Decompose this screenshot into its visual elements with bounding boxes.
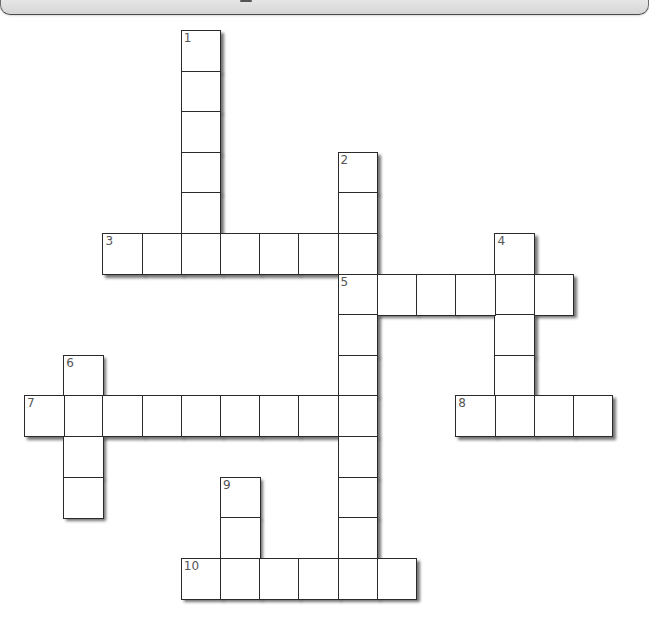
clue-number: 2 xyxy=(341,154,349,166)
clue-number: 9 xyxy=(223,479,231,491)
crossword-cell[interactable] xyxy=(338,233,379,275)
clue-number: 8 xyxy=(458,397,466,409)
crossword-cell[interactable] xyxy=(259,558,300,600)
crossword-cell[interactable]: 1 xyxy=(181,30,222,72)
crossword-cell[interactable]: 4 xyxy=(494,233,535,275)
crossword-cell[interactable] xyxy=(63,395,104,437)
crossword-cell[interactable]: 7 xyxy=(24,395,65,437)
crossword-cell[interactable] xyxy=(102,395,143,437)
crossword-cell[interactable]: 2 xyxy=(338,152,379,194)
crossword-cell[interactable] xyxy=(142,395,183,437)
crossword-cell[interactable] xyxy=(63,436,104,478)
crossword-cell[interactable]: 3 xyxy=(102,233,143,275)
crossword-cell[interactable]: 5 xyxy=(338,274,379,316)
crossword-cell[interactable] xyxy=(494,355,535,397)
crossword-cell[interactable] xyxy=(534,274,575,316)
crossword-cell[interactable]: 10 xyxy=(181,558,222,600)
crossword-cell[interactable] xyxy=(181,71,222,113)
crossword-cell[interactable]: 8 xyxy=(455,395,496,437)
clue-number: 5 xyxy=(341,276,349,288)
crossword-cell[interactable]: 6 xyxy=(63,355,104,397)
crossword-cell[interactable] xyxy=(181,111,222,153)
crossword-cell[interactable] xyxy=(338,355,379,397)
crossword-cell[interactable] xyxy=(338,517,379,559)
crossword-cell[interactable] xyxy=(377,558,418,600)
crossword-cell[interactable] xyxy=(338,477,379,519)
crossword-cell[interactable] xyxy=(181,233,222,275)
crossword-cell[interactable] xyxy=(494,314,535,356)
crossword-cell[interactable] xyxy=(377,274,418,316)
crossword-cell[interactable] xyxy=(338,395,379,437)
clue-number: 4 xyxy=(497,235,505,247)
crossword-cell[interactable] xyxy=(220,517,261,559)
crossword-cell[interactable] xyxy=(338,558,379,600)
crossword-cell[interactable] xyxy=(494,274,535,316)
crossword-cell[interactable]: 9 xyxy=(220,477,261,519)
crossword-cell[interactable] xyxy=(455,274,496,316)
crossword-cell[interactable] xyxy=(338,436,379,478)
crossword-cell[interactable] xyxy=(220,233,261,275)
crossword-cell[interactable] xyxy=(298,395,339,437)
crossword-cell[interactable] xyxy=(220,558,261,600)
crossword-cell[interactable] xyxy=(259,233,300,275)
crossword-cell[interactable] xyxy=(573,395,614,437)
crossword-cell[interactable] xyxy=(181,192,222,234)
crossword-cell[interactable] xyxy=(298,558,339,600)
clue-number: 7 xyxy=(27,397,35,409)
crossword-cell[interactable] xyxy=(298,233,339,275)
crossword-cell[interactable] xyxy=(416,274,457,316)
clue-number: 6 xyxy=(66,357,74,369)
clue-number: 10 xyxy=(184,560,199,572)
crossword-cell[interactable] xyxy=(142,233,183,275)
clue-number: 3 xyxy=(105,235,113,247)
crossword-cell[interactable] xyxy=(338,314,379,356)
crossword-cell[interactable] xyxy=(220,395,261,437)
crossword-cell[interactable] xyxy=(181,152,222,194)
crossword-cell[interactable] xyxy=(494,395,535,437)
crossword-cell[interactable] xyxy=(338,192,379,234)
crossword-cell[interactable] xyxy=(181,395,222,437)
crossword-grid: 12534678910 xyxy=(0,0,649,623)
crossword-cell[interactable] xyxy=(63,477,104,519)
crossword-cell[interactable] xyxy=(259,395,300,437)
crossword-cell[interactable] xyxy=(534,395,575,437)
clue-number: 1 xyxy=(184,32,192,44)
